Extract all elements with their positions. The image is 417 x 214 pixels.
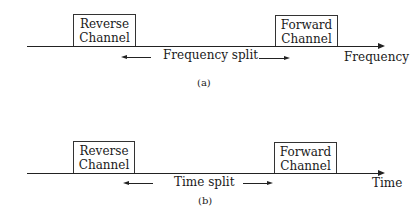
panel-time-split: Reverse Channel Forward Channel Time spl… (0, 0, 417, 214)
box-label-line2: Channel (275, 159, 336, 173)
reverse-channel-box: Reverse Channel (73, 141, 135, 173)
box-label-line1: Forward (275, 145, 336, 159)
forward-channel-box: Forward Channel (274, 142, 337, 173)
caption: (b) (198, 195, 212, 207)
right-arrow-shaft (243, 183, 268, 184)
split-label: Time split (174, 175, 234, 189)
box-label-line2: Channel (74, 158, 134, 172)
box-label-line1: Reverse (74, 144, 134, 158)
right-arrowhead-icon (267, 181, 273, 185)
axis-label: Time (372, 176, 402, 190)
left-arrow-shaft (128, 183, 153, 184)
